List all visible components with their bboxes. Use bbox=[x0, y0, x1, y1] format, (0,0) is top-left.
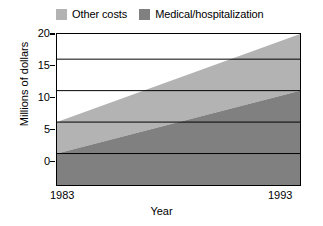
y-tick-mark-20 bbox=[50, 33, 55, 35]
y-tick-mark-5 bbox=[50, 129, 55, 131]
y-tick-label-5: 5 bbox=[24, 124, 50, 135]
x-tick-label-1993: 1993 bbox=[268, 189, 292, 201]
chart-container: Other costs Medical/hospitalization Mill… bbox=[0, 0, 323, 226]
legend-swatch-medical bbox=[139, 9, 150, 20]
x-axis-title: Year bbox=[0, 205, 323, 217]
y-tick-label-10: 10 bbox=[24, 92, 50, 103]
y-axis-ticks: 20 15 10 5 0 bbox=[24, 33, 50, 186]
plot-area bbox=[56, 33, 301, 186]
legend-item-other-costs: Other costs bbox=[56, 7, 127, 21]
y-tick-mark-15 bbox=[50, 65, 55, 67]
legend-label-other-costs: Other costs bbox=[72, 8, 127, 20]
x-tick-label-1983: 1983 bbox=[50, 189, 74, 201]
chart-svg bbox=[57, 34, 300, 185]
legend-item-medical: Medical/hospitalization bbox=[139, 7, 263, 21]
legend-label-medical: Medical/hospitalization bbox=[155, 8, 263, 20]
y-tick-label-15: 15 bbox=[24, 60, 50, 71]
chart-legend: Other costs Medical/hospitalization bbox=[56, 7, 264, 21]
y-tick-mark-10 bbox=[50, 97, 55, 99]
y-tick-mark-0 bbox=[50, 161, 55, 163]
legend-swatch-other-costs bbox=[56, 9, 67, 20]
plot-inner bbox=[57, 34, 300, 185]
y-tick-label-0: 0 bbox=[24, 156, 50, 167]
y-tick-label-20: 20 bbox=[24, 28, 50, 39]
